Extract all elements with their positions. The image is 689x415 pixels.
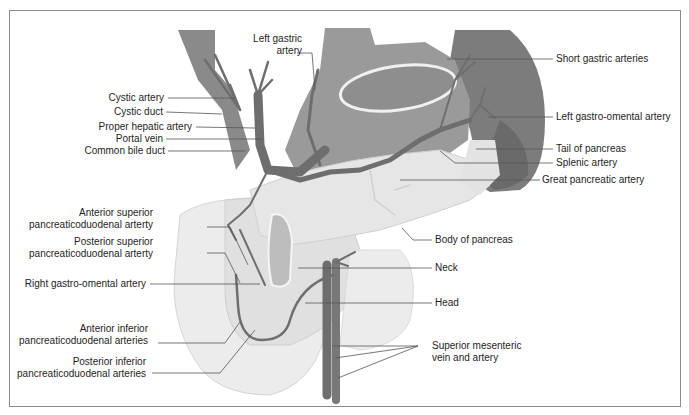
label-anterior-inferior-pd-arteries: Anterior inferior pancreaticoduodenal ar… <box>19 323 148 347</box>
label-superior-mesenteric-vessels: Superior mesenteric vein and artery <box>432 340 521 364</box>
label-great-pancreatic-artery: Great pancreatic artery <box>542 174 644 186</box>
label-portal-vein: Portal vein <box>116 133 163 145</box>
label-short-gastric-arteries: Short gastric arteries <box>556 53 648 65</box>
label-left-gastro-omental-artery: Left gastro-omental artery <box>556 111 671 123</box>
label-posterior-inferior-pd-arteries: Posterior inferior pancreaticoduodenal a… <box>17 356 146 380</box>
label-cystic-artery: Cystic artery <box>108 92 164 104</box>
label-posterior-superior-pd-artery: Posterior superior pancreaticoduodenal a… <box>29 236 153 260</box>
label-splenic-artery: Splenic artery <box>556 157 617 169</box>
label-body-of-pancreas: Body of pancreas <box>435 234 513 246</box>
label-common-bile-duct: Common bile duct <box>84 145 165 157</box>
label-left-gastric-artery: Left gastric artery <box>253 33 302 57</box>
label-head: Head <box>435 297 459 309</box>
label-proper-hepatic-artery: Proper hepatic artery <box>99 121 192 133</box>
label-anterior-superior-pd-artery: Anterior superior pancreaticoduodenal ar… <box>29 207 153 231</box>
uncinate-lobe <box>340 250 413 350</box>
gallbladder-shape <box>178 30 250 170</box>
label-cystic-duct: Cystic duct <box>114 106 163 118</box>
label-neck: Neck <box>435 262 458 274</box>
label-tail-of-pancreas: Tail of pancreas <box>556 143 626 155</box>
duodenal-lumen <box>269 214 293 286</box>
label-right-gastro-omental-artery: Right gastro-omental artery <box>25 278 146 290</box>
